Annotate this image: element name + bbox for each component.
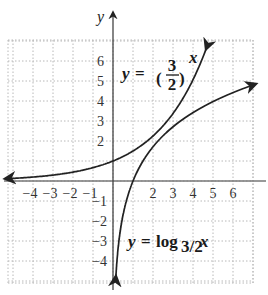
x-tick-label: −2	[63, 186, 78, 201]
y-tick-label: 4	[97, 94, 104, 109]
x-tick-label: −4	[23, 186, 38, 201]
y-tick-label: 5	[97, 74, 104, 89]
logarithm-equation-label: y=log3/2x	[126, 232, 209, 256]
svg-text:y: y	[120, 64, 130, 83]
x-tick-label: 6	[230, 186, 237, 201]
graph-canvas: y −4−3−2−12345665432−1−2−3−4 y=(32)xy=lo…	[0, 0, 268, 295]
y-tick-label: 3	[97, 114, 104, 129]
y-axis-label: y	[95, 8, 105, 26]
x-tick-label: 4	[190, 186, 197, 201]
svg-text:=: =	[141, 232, 151, 251]
y-tick-label: −2	[92, 214, 107, 229]
svg-text:log: log	[156, 232, 178, 251]
svg-text:x: x	[188, 48, 198, 67]
y-tick-label: −1	[92, 194, 107, 209]
svg-text:y: y	[126, 232, 136, 251]
x-tick-label: 2	[150, 186, 157, 201]
svg-text:): )	[179, 69, 185, 88]
svg-text:2: 2	[168, 75, 177, 94]
x-tick-label: 3	[170, 186, 177, 201]
y-tick-label: −3	[92, 234, 107, 249]
y-tick-label: −4	[92, 254, 107, 269]
exponential-equation-label: y=(32)x	[120, 48, 198, 94]
y-tick-label: 6	[97, 54, 104, 69]
y-tick-label: 2	[97, 134, 104, 149]
x-tick-label: 5	[210, 186, 217, 201]
x-tick-label: −3	[43, 186, 58, 201]
svg-text:=: =	[135, 64, 145, 83]
svg-text:x: x	[199, 232, 209, 251]
svg-text:(: (	[156, 69, 162, 88]
svg-text:3: 3	[168, 56, 177, 75]
